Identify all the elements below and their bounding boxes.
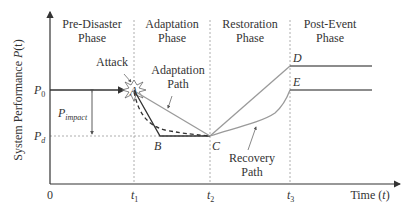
t3-label: t3 (287, 188, 294, 204)
adaptation-path-pointer (168, 96, 172, 108)
point-b-label: B (154, 139, 162, 153)
phase-title-restoration: Restoration (222, 17, 277, 31)
adaptation-path-label-line2: Path (167, 77, 188, 91)
phase-title-adaptation: Adaptation (145, 17, 198, 31)
origin-label: 0 (47, 188, 53, 202)
phase-subtitle-adaptation: Phase (158, 31, 186, 45)
attack-pointer (124, 74, 131, 82)
phase-subtitle-post-event: Phase (316, 31, 344, 45)
phase-title-pre-disaster: Pre-Disaster (62, 17, 121, 31)
point-a-label: A (129, 84, 138, 98)
recovery-path-pointer (248, 127, 256, 150)
recovery-path-label-line1: Recovery (229, 151, 275, 165)
restoration-path-d (210, 66, 290, 136)
point-e-label: E (292, 75, 301, 89)
resilience-curve-diagram: Pre-Disaster Phase Adaptation Phase Rest… (0, 0, 419, 212)
p0-label: P0 (33, 83, 45, 99)
attack-label: Attack (96, 55, 128, 69)
recovery-path-label-line2: Path (241, 165, 262, 179)
pd-label: Pd (33, 129, 46, 145)
phase-subtitle-pre-disaster: Phase (78, 31, 106, 45)
adaptation-path-label-line1: Adaptation (151, 63, 204, 77)
t2-label: t2 (207, 188, 214, 204)
y-axis-title: System Performance P(t) (11, 39, 25, 160)
point-d-label: D (292, 51, 302, 65)
recovery-path-e (210, 90, 290, 136)
phase-subtitle-restoration: Phase (236, 31, 264, 45)
point-c-label: C (212, 139, 221, 153)
p-impact-label: Pimpact (57, 106, 88, 122)
t1-label: t1 (131, 188, 138, 204)
phase-title-post-event: Post-Event (304, 17, 357, 31)
x-axis-title: Time (t) (350, 188, 389, 202)
